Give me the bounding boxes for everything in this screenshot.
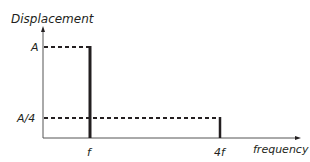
y-tick-A-quarter: A/4 [16, 112, 35, 125]
x-axis-arrow-icon [295, 136, 301, 140]
x-axis-label: frequency [253, 143, 309, 156]
y-axis-arrow-icon [41, 26, 45, 32]
x-tick-4f: 4f [214, 146, 227, 159]
x-tick-f: f [87, 146, 93, 159]
spectrum-diagram: Displacement A A/4 f 4f frequency [0, 0, 310, 162]
y-tick-A: A [30, 41, 39, 54]
y-axis-label: Displacement [11, 12, 95, 26]
